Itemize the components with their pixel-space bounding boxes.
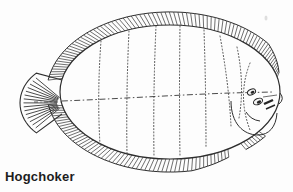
hogchoker-figure: Hogchoker [0,0,293,192]
print-artifact [265,16,268,21]
caudal-fin [20,73,62,133]
hogchoker-illustration [0,0,293,192]
figure-caption: Hogchoker [5,169,75,184]
